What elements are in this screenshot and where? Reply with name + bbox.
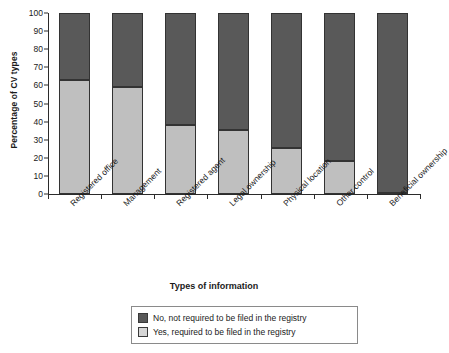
bar-segment-yes: [59, 80, 90, 194]
y-tick-mark: [44, 49, 48, 50]
x-tick-mark: [261, 194, 262, 199]
legend-label: No, not required to be filed in the regi…: [153, 313, 307, 323]
y-tick-label: 40: [0, 117, 48, 127]
bar-stack: [59, 13, 90, 194]
x-axis-title: Types of information: [0, 281, 428, 291]
bar-segment-no: [112, 13, 143, 87]
bar-segment-no: [59, 13, 90, 80]
chart-legend: No, not required to be filed in the regi…: [131, 306, 358, 344]
y-tick-mark: [44, 31, 48, 32]
legend-item: No, not required to be filed in the regi…: [138, 311, 351, 325]
y-tick-label: 20: [0, 153, 48, 163]
y-tick-label: 90: [0, 26, 48, 36]
bar-segment-no: [324, 13, 355, 161]
bar-stack: [271, 13, 302, 194]
bar-segment-no: [271, 13, 302, 148]
x-tick-mark: [420, 194, 421, 199]
y-tick-label: 50: [0, 99, 48, 109]
y-tick-mark: [44, 103, 48, 104]
y-tick-label: 0: [0, 189, 48, 199]
y-tick-label: 100: [0, 8, 48, 18]
legend-swatch-light: [138, 327, 148, 337]
y-tick-mark: [44, 121, 48, 122]
legend-item: Yes, required to be filed in the registr…: [138, 325, 351, 339]
y-tick-label: 10: [0, 171, 48, 181]
x-tick-mark: [48, 194, 49, 199]
y-axis-line: [48, 13, 49, 194]
x-tick-mark: [207, 194, 208, 199]
bar-stack: [377, 13, 408, 194]
bar-stack: [165, 13, 196, 194]
bar-segment-no: [218, 13, 249, 130]
x-tick-mark: [154, 194, 155, 199]
x-tick-mark: [101, 194, 102, 199]
x-tick-mark: [314, 194, 315, 199]
y-tick-label: 80: [0, 44, 48, 54]
legend-label: Yes, required to be filed in the registr…: [153, 327, 295, 337]
bar-stack: [218, 13, 249, 194]
y-tick-mark: [44, 13, 48, 14]
bar-segment-yes: [112, 87, 143, 194]
bar-segment-no: [165, 13, 196, 125]
y-tick-label: 30: [0, 135, 48, 145]
y-tick-mark: [44, 67, 48, 68]
y-tick-label: 70: [0, 62, 48, 72]
y-tick-mark: [44, 85, 48, 86]
legend-swatch-dark: [138, 313, 148, 323]
y-tick-mark: [44, 157, 48, 158]
bar-segment-no: [377, 13, 408, 193]
y-tick-label: 60: [0, 80, 48, 90]
y-tick-mark: [44, 175, 48, 176]
y-tick-mark: [44, 139, 48, 140]
x-tick-mark: [367, 194, 368, 199]
